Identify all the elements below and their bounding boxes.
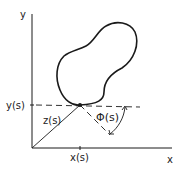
- position-vector-label: z(s): [43, 115, 61, 126]
- x-axis-label: x: [167, 154, 173, 165]
- angle-label: Φ(s): [96, 111, 119, 124]
- curve-diagram: y x y(s) x(s) z(s) Φ(s): [0, 0, 189, 172]
- y-axis-label: y: [20, 9, 26, 20]
- closed-curve: [57, 23, 137, 105]
- x-tick-label: x(s): [70, 152, 89, 163]
- y-tick-label: y(s): [6, 100, 25, 111]
- curve-point: [78, 103, 82, 107]
- position-vector: [32, 105, 80, 148]
